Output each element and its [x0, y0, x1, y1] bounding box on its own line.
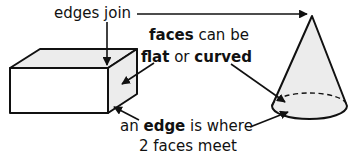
cuboid-front-face [10, 68, 108, 113]
arrow-edge-to-cone-edge [250, 112, 288, 127]
cone-body [272, 16, 347, 119]
label-faces-bold: faces [149, 26, 194, 44]
cuboid-shape [10, 49, 137, 113]
arrow-curved-to-cone-face [231, 64, 285, 102]
label-2-faces-meet: 2 faces meet [139, 139, 237, 154]
label-can-be: can be [194, 26, 249, 44]
label-edges-join: edges join [54, 6, 131, 21]
label-faces-can-be: faces can be [149, 28, 249, 43]
cone-shape [272, 16, 347, 119]
diagram-page: edges join faces can be flat or curved a… [0, 0, 358, 156]
label-an: an [120, 117, 143, 135]
label-flat-or-curved: flat or curved [141, 50, 252, 65]
label-flat-bold: flat [141, 48, 169, 66]
label-an-edge-is-where: an edge is where [120, 119, 253, 134]
label-or: or [169, 48, 194, 66]
label-edge-bold: edge [143, 117, 185, 135]
label-curved-bold: curved [194, 48, 252, 66]
label-is-where: is where [185, 117, 253, 135]
